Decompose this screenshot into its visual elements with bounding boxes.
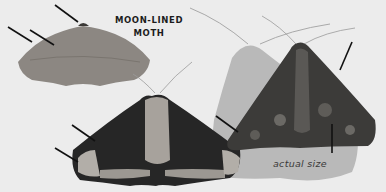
species-title-line2: MOTH [114,27,184,40]
species-title: MOON-LINED MOTH [114,14,184,40]
arrow [340,42,352,70]
species-title-line1: MOON-LINED [114,14,184,27]
moth-mottled-antenna [262,16,296,44]
shadow-antenna [190,8,248,44]
moth-dark-body [145,97,170,164]
arrow [55,5,78,22]
shadow-antenna [260,24,330,44]
moth-artwork [0,0,386,192]
moth-mottled-body [294,48,310,133]
mottle [345,125,355,135]
mottle [274,114,286,126]
moth-plain-head [78,23,89,26]
arrow [72,125,95,141]
mottle [318,103,332,117]
mottle [250,130,260,140]
moth-dark-banded-antenna [160,62,192,93]
moth-illustration: MOON-LINED MOTH actual size [0,0,386,192]
actual-size-caption: actual size [273,158,327,169]
moth-mottled-antenna [304,28,355,44]
arrow [8,27,32,42]
